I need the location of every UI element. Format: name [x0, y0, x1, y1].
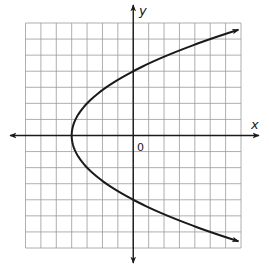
axes: [10, 5, 259, 263]
x-axis-label: x: [250, 117, 259, 132]
y-axis-label: y: [138, 3, 147, 18]
origin-label: 0: [137, 141, 144, 154]
coordinate-plane: x y 0: [0, 0, 269, 269]
